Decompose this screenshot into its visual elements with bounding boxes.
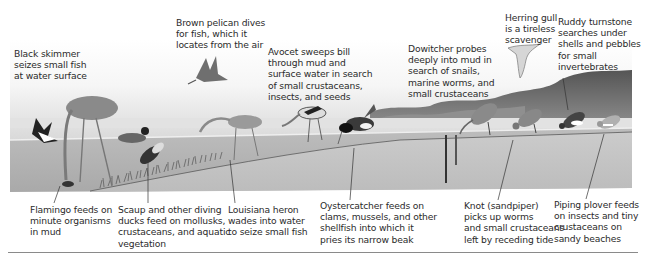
stake: [455, 135, 457, 165]
label-knot: Knot (sandpiper) picks up worms and smal…: [464, 200, 564, 245]
label-louisiana-heron: Louisiana heron wades into water to seiz…: [228, 204, 307, 238]
label-herring-gull: Herring gull is a tireless scavenger: [505, 12, 557, 46]
label-scaup: Scaup and other diving ducks feed on mol…: [118, 204, 230, 249]
label-dowitcher: Dowitcher probes deeply into mud in sear…: [408, 43, 494, 99]
label-ruddy-turnstone: Ruddy turnstone searches under shells an…: [558, 16, 641, 72]
stake: [445, 135, 447, 183]
label-avocet: Avocet sweeps bill through mud and surfa…: [268, 46, 372, 102]
bottom-rule: [8, 252, 638, 253]
label-brown-pelican: Brown pelican dives for fish, which it l…: [176, 17, 265, 51]
label-flamingo: Flamingo feeds on minute organisms in mu…: [30, 204, 112, 238]
label-black-skimmer: Black skimmer seizes small fish at water…: [14, 48, 87, 82]
label-oystercatcher: Oystercatcher feeds on clams, mussels, a…: [320, 200, 437, 245]
label-piping-plover: Piping plover feeds on insects and tiny …: [554, 199, 639, 244]
